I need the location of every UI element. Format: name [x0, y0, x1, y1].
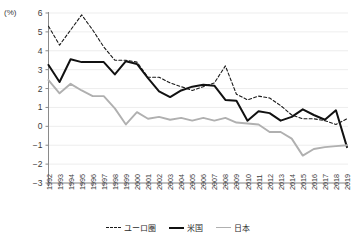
- legend-label-us: 米国: [187, 222, 203, 233]
- x-axis-tick-label: 2019: [343, 174, 352, 190]
- x-axis-tick-label: 2007: [210, 174, 219, 190]
- x-axis-tick-label: 2000: [133, 174, 142, 190]
- x-axis-tick-label: 2015: [299, 174, 308, 190]
- y-axis-tick-label: 3: [38, 65, 43, 75]
- x-axis-tick-label: 2005: [188, 174, 197, 190]
- gridlines-group: [49, 13, 349, 183]
- y-axis-tick-label: 5: [38, 27, 43, 37]
- x-axis-tick-label: 2008: [221, 174, 230, 190]
- y-axis-tick-label: 6: [38, 8, 43, 18]
- x-axis-tick-label: 1998: [111, 174, 120, 190]
- x-axis-tick-label: 2014: [288, 174, 297, 190]
- x-axis-tick-label: 2004: [177, 174, 186, 190]
- y-axis-tick-label: −2: [33, 159, 43, 169]
- legend-swatch-japan-solid-line-icon: [216, 227, 231, 228]
- x-axis-tick-label: 2006: [199, 174, 208, 190]
- x-axis-tick-label: 2001: [144, 174, 153, 190]
- x-axis-tick-label: 1997: [100, 174, 109, 190]
- x-axis-tick-label: 1995: [78, 174, 87, 190]
- x-axis-tick-label: 2002: [155, 174, 164, 190]
- x-axis-tick-label: 1993: [56, 174, 65, 190]
- x-axis-tick-label: 2011: [255, 175, 264, 190]
- y-axis-tick-label: 2: [38, 84, 43, 94]
- series-lines-group: [49, 15, 348, 156]
- series-line-us: [49, 59, 348, 147]
- legend-item-us: 米国: [169, 222, 203, 233]
- x-axis-tick-label: 2009: [232, 174, 241, 190]
- x-axis-tick-label: 2017: [321, 174, 330, 190]
- chart-legend: ユーロ圏 米国 日本: [0, 222, 355, 233]
- x-axis-tick-label: 2013: [277, 174, 286, 190]
- y-axis-tick-label: −1: [33, 140, 43, 150]
- x-axis-tick-label: 2003: [166, 174, 175, 190]
- x-axis-tick-label: 2012: [266, 174, 275, 190]
- x-axis-tick-label: 1996: [89, 174, 98, 190]
- legend-swatch-us-solid-line-icon: [169, 227, 184, 229]
- legend-label-japan: 日本: [234, 222, 250, 233]
- x-axis-labels-group: 1992199319941995199619971998199920002001…: [45, 174, 353, 190]
- legend-label-euro: ユーロ圏: [124, 222, 156, 233]
- legend-item-euro: ユーロ圏: [106, 222, 156, 233]
- y-axis-tick-label: 4: [38, 46, 43, 56]
- y-axis-tick-label: 1: [38, 102, 43, 112]
- chart-container: (%) 6543210−1−2−3 1992199319941995199619…: [0, 0, 355, 242]
- legend-swatch-euro-dashed-line-icon: [106, 227, 121, 228]
- y-axis-ticks-group: 6543210−1−2−3: [33, 8, 49, 188]
- series-line-japan: [49, 80, 348, 156]
- x-axis-tick-label: 1999: [122, 174, 131, 190]
- x-axis-tick-label: 2010: [244, 174, 253, 190]
- line-chart-plot: 6543210−1−2−3 19921993199419951996199719…: [0, 0, 355, 242]
- x-axis-tick-label: 2018: [332, 174, 341, 190]
- x-axis-tick-label: 1992: [45, 174, 54, 190]
- y-axis-tick-label: 0: [38, 121, 43, 131]
- x-axis-tick-label: 1994: [67, 174, 76, 190]
- legend-item-japan: 日本: [216, 222, 250, 233]
- x-axis-tick-label: 2016: [310, 174, 319, 190]
- y-axis-tick-label: −3: [33, 178, 43, 188]
- axes-group: [49, 12, 349, 183]
